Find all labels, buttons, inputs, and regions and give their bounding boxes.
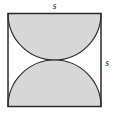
side-label-right: s — [105, 58, 109, 68]
geometry-figure: s s — [0, 0, 115, 123]
side-label-top: s — [53, 1, 57, 11]
figure-canvas: s s — [0, 0, 115, 123]
